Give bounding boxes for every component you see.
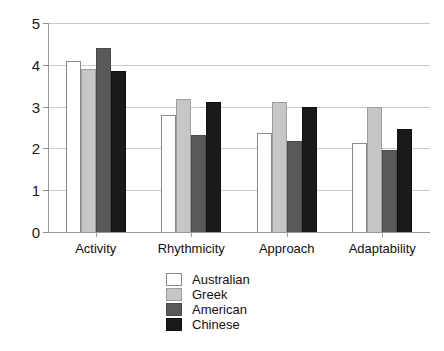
legend-swatch-chinese xyxy=(166,318,182,331)
legend-item-australian[interactable]: Australian xyxy=(166,272,336,287)
y-tick-mark xyxy=(43,107,48,108)
bar-rhythmicity-american[interactable] xyxy=(191,135,206,232)
bar-activity-australian[interactable] xyxy=(66,61,81,232)
bar-adaptability-greek[interactable] xyxy=(367,107,382,232)
bar-group-rhythmicity xyxy=(144,23,240,232)
bar-group-approach xyxy=(239,23,335,232)
legend-swatch-greek xyxy=(166,288,182,301)
x-axis-line xyxy=(48,232,430,233)
bars xyxy=(144,23,240,232)
legend-swatch-american xyxy=(166,303,182,316)
bar-approach-australian[interactable] xyxy=(257,133,272,232)
y-tick-label: 4 xyxy=(14,58,40,73)
x-tick-label: Activity xyxy=(75,238,116,255)
x-tick-mark xyxy=(287,232,288,237)
bar-adaptability-american[interactable] xyxy=(382,150,397,232)
bars xyxy=(335,23,431,232)
y-tick-label: 3 xyxy=(14,100,40,115)
x-tick-adaptability: Adaptability xyxy=(335,238,431,257)
y-tick-label: 1 xyxy=(14,183,40,198)
bar-approach-greek[interactable] xyxy=(272,102,287,232)
bar-activity-chinese[interactable] xyxy=(111,71,126,232)
x-axis-labels: ActivityRhythmicityApproachAdaptability xyxy=(48,238,430,257)
bar-rhythmicity-chinese[interactable] xyxy=(206,102,221,232)
bar-approach-chinese[interactable] xyxy=(302,107,317,232)
x-tick-mark xyxy=(382,232,383,237)
y-axis-labels: 543210 xyxy=(8,23,40,232)
x-tick-activity: Activity xyxy=(48,238,144,257)
bar-group-adaptability xyxy=(335,23,431,232)
legend-label: Greek xyxy=(192,288,227,301)
y-tick-mark xyxy=(43,190,48,191)
x-tick-approach: Approach xyxy=(239,238,335,257)
x-tick-rhythmicity: Rhythmicity xyxy=(144,238,240,257)
legend-label: Australian xyxy=(192,273,250,286)
bar-activity-greek[interactable] xyxy=(81,69,96,232)
x-tick-mark xyxy=(191,232,192,237)
bar-activity-american[interactable] xyxy=(96,48,111,232)
bar-rhythmicity-australian[interactable] xyxy=(161,115,176,232)
y-tick-label: 2 xyxy=(14,141,40,156)
x-tick-mark xyxy=(96,232,97,237)
x-tick-label: Approach xyxy=(259,238,315,255)
bars xyxy=(48,23,144,232)
legend-item-greek[interactable]: Greek xyxy=(166,287,336,302)
legend: AustralianGreekAmericanChinese xyxy=(166,272,336,332)
bar-group-activity xyxy=(48,23,144,232)
y-tick-mark xyxy=(43,23,48,24)
bar-approach-american[interactable] xyxy=(287,141,302,232)
x-tick-label: Rhythmicity xyxy=(158,238,225,255)
bar-adaptability-australian[interactable] xyxy=(352,143,367,232)
bar-chart: 543210 ActivityRhythmicityApproachAdapta… xyxy=(0,0,444,351)
y-tick-label: 0 xyxy=(14,225,40,240)
legend-item-american[interactable]: American xyxy=(166,302,336,317)
y-tick-mark xyxy=(43,148,48,149)
bar-groups xyxy=(48,23,430,232)
legend-item-chinese[interactable]: Chinese xyxy=(166,317,336,332)
y-tick-mark xyxy=(43,232,48,233)
legend-label: Chinese xyxy=(192,318,240,331)
legend-swatch-australian xyxy=(166,273,182,286)
bars xyxy=(239,23,335,232)
y-tick-mark xyxy=(43,65,48,66)
legend-label: American xyxy=(192,303,247,316)
bar-adaptability-chinese[interactable] xyxy=(397,129,412,232)
bar-rhythmicity-greek[interactable] xyxy=(176,99,191,232)
y-tick-label: 5 xyxy=(14,16,40,31)
x-tick-label: Adaptability xyxy=(349,238,416,255)
